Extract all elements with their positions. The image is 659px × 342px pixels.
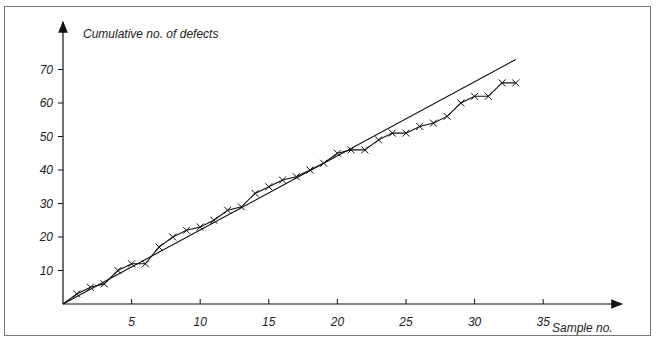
x-tick-label: 20 [330,315,345,329]
cumulative-defects-chart: 5101520253035 10203040506070 Cumulative … [0,0,659,342]
series-group [63,59,519,304]
x-tick-label: 25 [398,315,413,329]
data-point-x-marker [169,234,176,241]
y-tick-label: 30 [40,197,54,211]
y-axis-label: Cumulative no. of defects [83,27,218,41]
data-point-x-marker [416,123,423,130]
data-point-x-marker [224,207,231,214]
y-ticks: 10203040506070 [39,63,63,278]
x-axis-label: Sample no. [552,321,613,335]
reference-line [63,59,516,304]
data-point-x-marker [265,183,272,190]
data-point-x-marker [444,113,451,120]
data-point-x-marker [375,136,382,143]
x-tick-label: 5 [128,315,135,329]
y-tick-label: 50 [40,130,54,144]
data-point-x-marker [430,120,437,127]
y-tick-label: 60 [40,96,54,110]
y-tick-label: 20 [39,230,54,244]
data-point-x-marker [252,190,259,197]
data-point-x-marker [156,244,163,251]
data-point-x-marker [457,100,464,107]
y-tick-label: 40 [40,163,54,177]
x-tick-label: 15 [262,315,276,329]
data-point-x-marker [183,227,190,234]
x-tick-label: 30 [468,315,482,329]
y-tick-label: 10 [40,264,54,278]
x-tick-label: 10 [194,315,208,329]
data-point-x-marker [279,177,286,184]
y-tick-label: 70 [40,63,54,77]
x-tick-label: 35 [537,315,551,329]
